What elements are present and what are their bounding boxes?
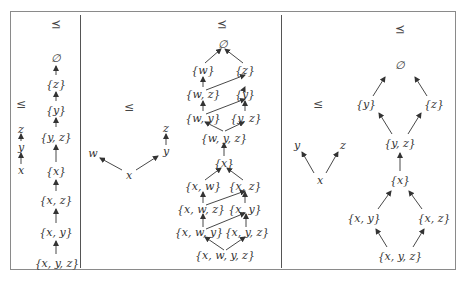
- hasse-node: ∅: [51, 53, 61, 64]
- poset-node: x: [126, 170, 132, 181]
- poset-node: y: [294, 140, 300, 151]
- hasse-node: {w}: [191, 65, 214, 76]
- hasse-node: {w, y, z}: [201, 133, 248, 144]
- hasse-node: ∅: [218, 39, 228, 50]
- hasse-node: {y}: [46, 105, 66, 116]
- poset-node: x: [317, 175, 323, 186]
- poset-node: z: [340, 140, 346, 151]
- hasse-node: {x, w, y, z}: [195, 250, 255, 261]
- order-symbol: ≤: [16, 98, 26, 110]
- poset-node: w: [88, 148, 97, 159]
- poset-node: y: [18, 142, 24, 153]
- hasse-node: {x, z}: [418, 213, 451, 224]
- preorder-symbol: ⪯: [395, 23, 405, 35]
- poset-node: x: [18, 165, 24, 176]
- poset-node: z: [163, 123, 169, 134]
- hasse-node: {x, y, z}: [225, 227, 270, 238]
- preorder-symbol: ⪯: [217, 18, 227, 30]
- hasse-node: {x}: [390, 175, 410, 186]
- hasse-node: {y, z}: [40, 132, 72, 143]
- hasse-node: {y, z}: [384, 138, 416, 149]
- hasse-node: {y}: [235, 89, 255, 100]
- order-symbol: ≤: [124, 101, 134, 113]
- hasse-node: {w, y}: [185, 113, 220, 124]
- figure-canvas: ≤ z y x ⪯ ∅ {z} {y} {y, z} {x} {x, z} {x…: [0, 0, 466, 285]
- hasse-node: {x, y, z}: [35, 258, 80, 269]
- hasse-node: {x}: [214, 158, 234, 169]
- order-symbol: ≤: [313, 98, 323, 110]
- hasse-node: ∅: [395, 60, 405, 71]
- hasse-node: {z}: [424, 99, 444, 110]
- poset-node: z: [18, 124, 24, 135]
- poset-node: y: [163, 146, 169, 157]
- hasse-node: {x}: [46, 166, 66, 177]
- hasse-node: {w, z}: [186, 89, 221, 100]
- hasse-node: {x, y, z}: [378, 251, 423, 262]
- hasse-node: {x, y}: [228, 204, 261, 215]
- hasse-node: {x, z}: [40, 195, 73, 206]
- hasse-node: {x, y}: [347, 213, 380, 224]
- hasse-node: {y}: [356, 99, 376, 110]
- preorder-symbol: ⪯: [51, 18, 61, 30]
- hasse-node: {z}: [46, 79, 66, 90]
- hasse-node: {x, w, y}: [175, 227, 224, 238]
- hasse-node: {x, w}: [185, 181, 222, 192]
- hasse-node: {z}: [235, 65, 255, 76]
- hasse-node: {x, y}: [39, 227, 72, 238]
- hasse-node: {y, z}: [230, 113, 262, 124]
- hasse-node: {x, w, z}: [177, 204, 225, 215]
- hasse-node: {x, z}: [229, 181, 262, 192]
